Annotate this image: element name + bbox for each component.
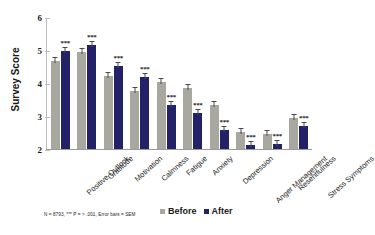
error-bar <box>240 129 241 134</box>
bar-before <box>157 82 166 149</box>
error-bar <box>224 127 225 132</box>
error-bar-cap <box>301 122 306 123</box>
y-tick-label: 4 <box>38 79 43 89</box>
error-bar <box>81 49 82 54</box>
error-bar <box>144 74 145 79</box>
error-bar <box>65 48 66 53</box>
error-bar <box>303 123 304 128</box>
legend-item: Before <box>160 206 197 216</box>
y-tick-label: 2 <box>38 145 43 155</box>
error-bar <box>293 115 294 120</box>
bar-group: *** <box>47 18 74 149</box>
error-bar-cap <box>238 128 243 129</box>
significance-marker: *** <box>273 132 282 140</box>
error-bar <box>277 141 278 146</box>
error-bar-cap <box>212 101 217 102</box>
significance-marker: *** <box>140 65 149 73</box>
bar-group: *** <box>153 18 180 149</box>
significance-marker: *** <box>61 39 70 47</box>
bar-group: *** <box>233 18 260 149</box>
bar-after: *** <box>114 66 123 149</box>
bar-after: *** <box>87 45 96 149</box>
error-bar <box>108 73 109 78</box>
error-bar-cap <box>63 47 68 48</box>
error-bar <box>134 88 135 93</box>
bar-before <box>289 118 298 149</box>
error-bar-cap <box>79 48 84 49</box>
significance-marker: *** <box>299 114 308 122</box>
significance-marker: *** <box>87 33 96 41</box>
bar-group: *** <box>100 18 127 149</box>
error-bar <box>118 63 119 68</box>
bar-after: *** <box>220 130 229 149</box>
y-tick-label: 6 <box>38 13 43 23</box>
error-bar-cap <box>195 109 200 110</box>
y-tick-label: 5 <box>38 46 43 56</box>
bar-after: *** <box>193 113 202 149</box>
x-axis-category-labels: Positive OutlookGratitudeMotivationCalmn… <box>46 152 312 204</box>
error-bar <box>250 142 251 147</box>
bar-group: *** <box>259 18 286 149</box>
error-bar-cap <box>53 57 58 58</box>
error-bar <box>91 42 92 47</box>
bar-group: *** <box>206 18 233 149</box>
bar-before <box>236 132 245 149</box>
legend-label: After <box>212 206 233 216</box>
bar-group: *** <box>127 18 154 149</box>
bar-group: *** <box>180 18 207 149</box>
bar-before <box>130 91 139 149</box>
x-axis-label: Depression <box>241 154 275 186</box>
legend-swatch <box>204 209 209 214</box>
significance-marker: *** <box>167 93 176 101</box>
error-bar <box>197 110 198 115</box>
error-bar-cap <box>248 141 253 142</box>
legend-swatch <box>160 209 165 214</box>
error-bar <box>214 102 215 107</box>
legend-item: After <box>204 206 233 216</box>
bar-before <box>51 61 60 149</box>
bar-before <box>210 105 219 149</box>
bar-after: *** <box>61 51 70 149</box>
error-bar-cap <box>275 140 280 141</box>
y-axis-title-container: Survey Score <box>4 18 26 152</box>
error-bar-cap <box>222 126 227 127</box>
bar-before <box>77 52 86 149</box>
error-bar-cap <box>185 84 190 85</box>
bar-groups: ****************************** <box>47 18 312 149</box>
significance-marker: *** <box>246 133 255 141</box>
y-tick-mark <box>45 150 50 151</box>
error-bar <box>267 131 268 136</box>
x-axis-label: Anxiety <box>211 154 235 177</box>
bar-after: *** <box>273 144 282 149</box>
error-bar <box>187 85 188 90</box>
error-bar-cap <box>89 41 94 42</box>
chart-footnote: N = 8793, *** P = > .001, Error bars = S… <box>44 212 135 217</box>
bar-after: *** <box>140 77 149 149</box>
bar-after: *** <box>167 105 176 149</box>
error-bar <box>161 79 162 84</box>
x-axis-line <box>46 149 312 150</box>
chart-legend: BeforeAfter <box>160 206 233 216</box>
error-bar-cap <box>159 78 164 79</box>
bar-after: *** <box>299 126 308 149</box>
error-bar <box>171 102 172 107</box>
error-bar-cap <box>291 114 296 115</box>
error-bar-cap <box>106 72 111 73</box>
bar-group: *** <box>74 18 101 149</box>
bar-after: *** <box>246 145 255 149</box>
error-bar-cap <box>132 87 137 88</box>
significance-marker: *** <box>114 54 123 62</box>
bar-group: *** <box>286 18 313 149</box>
error-bar-cap <box>169 101 174 102</box>
bar-before <box>183 88 192 149</box>
error-bar-cap <box>142 73 147 74</box>
y-tick-label: 3 <box>38 112 43 122</box>
error-bar-cap <box>116 62 121 63</box>
error-bar-cap <box>265 130 270 131</box>
legend-label: Before <box>168 206 197 216</box>
bar-before <box>263 134 272 150</box>
x-axis-label: Motivation <box>133 154 164 184</box>
bar-before <box>104 76 113 149</box>
y-axis-title: Survey Score <box>10 13 21 147</box>
